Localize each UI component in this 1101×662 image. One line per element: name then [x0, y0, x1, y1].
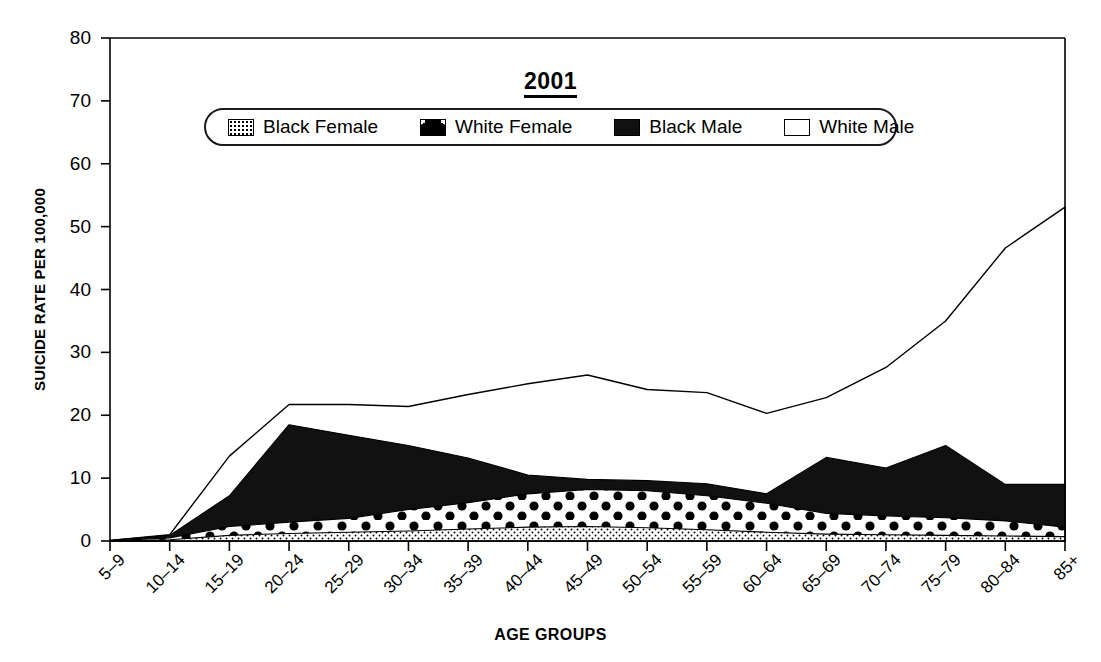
y-tick-label: 10 [47, 468, 91, 487]
y-tick-label: 40 [47, 280, 91, 299]
y-tick-label: 30 [47, 342, 91, 361]
y-tick-label: 60 [47, 154, 91, 173]
y-tick-label: 0 [47, 531, 91, 550]
y-tick-label: 70 [47, 91, 91, 110]
y-tick-label: 50 [47, 217, 91, 236]
y-tick-label: 20 [47, 405, 91, 424]
x-axis-title: AGE GROUPS [0, 626, 1101, 644]
chart-figure: SUICIDE RATE PER 100,000 2001 Black Fema… [0, 0, 1101, 662]
y-tick-label: 80 [47, 28, 91, 47]
